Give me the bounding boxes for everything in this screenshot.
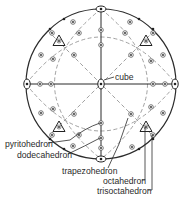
stereographic-projection: cube pyritohedron dodecahedron trapezohe… bbox=[0, 0, 186, 204]
label-octahedron: octahedron bbox=[103, 176, 146, 186]
label-trapezohedron: trapezohedron bbox=[62, 166, 118, 176]
label-trisoctahedron: trisoctahedron bbox=[97, 186, 152, 196]
label-pyritohedron: pyritohedron bbox=[5, 139, 53, 149]
label-dodecahedron: dodecahedron bbox=[17, 150, 72, 160]
label-cube: cube bbox=[115, 72, 134, 82]
